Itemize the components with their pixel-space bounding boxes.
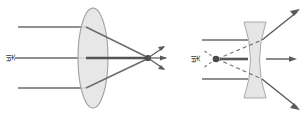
concave-refracted-ray-bottom [262, 79, 297, 107]
concave-ray-arrowheads [289, 9, 300, 110]
optics-figure: 빛 [0, 0, 307, 118]
concave-virtual-focal-point [213, 56, 220, 63]
concave-source-label: 빛 [191, 55, 201, 63]
concave-lens-diagram: 빛 [191, 9, 301, 110]
convex-source-label: 빛 [6, 54, 16, 62]
concave-refracted-ray-top [262, 12, 297, 40]
diagram-canvas: 빛 [0, 0, 307, 118]
convex-lens-diagram: 빛 [6, 8, 168, 108]
